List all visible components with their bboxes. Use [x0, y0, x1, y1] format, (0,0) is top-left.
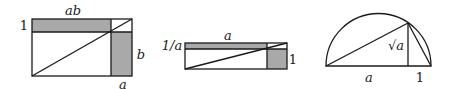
label-1: 1 [20, 18, 28, 33]
chord-right [408, 23, 431, 66]
label-a: a [224, 28, 232, 43]
label-one-over-a: 1/a [162, 38, 182, 53]
figure-rectangle-reciprocal: a 1/a 1 [162, 28, 297, 69]
label-1: 1 [289, 52, 297, 67]
label-b: b [137, 47, 145, 62]
diagram-canvas: ab 1 b a a 1/a 1 √a a 1 [0, 0, 453, 89]
figure-rectangle-ab: ab 1 b a [20, 3, 145, 89]
label-ab: ab [65, 3, 81, 18]
shaded-top-strip [32, 19, 111, 32]
label-1: 1 [416, 70, 424, 85]
label-a: a [365, 70, 373, 85]
label-a: a [119, 77, 127, 89]
figure-semicircle-sqrt: √a a 1 [326, 14, 431, 86]
shaded-right-square [267, 49, 287, 69]
shaded-top-strip [185, 43, 267, 49]
shaded-right-strip [111, 32, 132, 76]
label-sqrt-a: √a [388, 38, 404, 53]
